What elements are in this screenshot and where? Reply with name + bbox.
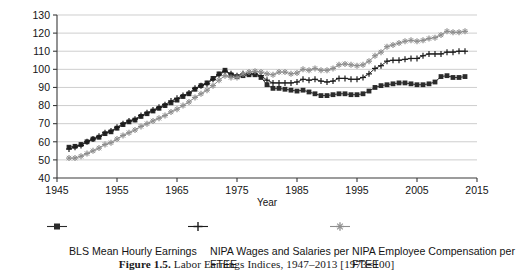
filled-square-marker	[307, 90, 312, 95]
legend-item-bls[interactable]: BLS Mean Hourly Earnings	[47, 219, 209, 258]
filled-square-marker	[379, 83, 384, 88]
star-marker	[102, 141, 108, 147]
filled-square-marker	[313, 91, 318, 96]
plus-marker	[300, 76, 306, 82]
filled-square-marker	[283, 87, 288, 92]
plus-marker	[444, 49, 450, 55]
star-marker	[396, 40, 402, 46]
filled-square-marker	[331, 92, 336, 97]
plus-marker	[390, 57, 396, 63]
star-marker	[132, 127, 138, 133]
star-marker	[402, 38, 408, 44]
x-tick-label: 2015	[465, 184, 489, 196]
star-marker	[336, 62, 342, 68]
star-marker	[126, 130, 132, 136]
axes-group	[57, 15, 477, 178]
star-marker	[360, 62, 366, 68]
star-marker	[90, 148, 96, 154]
star-marker	[420, 37, 426, 43]
y-tick-label: 120	[32, 27, 50, 39]
star-marker	[318, 67, 324, 73]
filled-square-marker	[433, 80, 438, 85]
plus-marker	[396, 57, 402, 63]
filled-square-marker	[277, 86, 282, 91]
star-marker	[180, 103, 186, 109]
filled-square-marker	[409, 81, 414, 86]
star-marker	[384, 44, 390, 50]
star-marker	[234, 74, 240, 80]
filled-square-marker	[289, 88, 294, 93]
star-marker	[300, 66, 306, 72]
star-marker	[168, 109, 174, 115]
plus-marker	[420, 53, 426, 59]
plus-marker	[312, 76, 318, 82]
filled-square-marker	[445, 73, 450, 78]
star-marker	[294, 70, 300, 76]
star-marker	[438, 32, 444, 38]
series-polyline	[69, 31, 465, 158]
filled-square-marker	[391, 81, 396, 86]
star-marker	[210, 83, 216, 89]
star-marker	[156, 115, 162, 121]
star-marker	[306, 67, 312, 73]
y-tick-label: 60	[38, 136, 50, 148]
star-marker	[408, 37, 414, 43]
star-marker	[390, 42, 396, 48]
series-3	[66, 28, 468, 161]
filled-square-marker	[367, 89, 372, 94]
star-marker	[324, 67, 330, 73]
figure-caption-text: Labor Earnings Indices, 1947–2013 [1973=…	[171, 258, 394, 270]
filled-square-marker	[295, 89, 300, 94]
star-marker	[114, 136, 120, 142]
x-axis-ticks: 19451955196519751985199520052015	[45, 178, 489, 196]
x-axis-title: Year	[257, 197, 278, 208]
x-tick-label: 1955	[105, 184, 129, 196]
x-tick-label: 2005	[405, 184, 429, 196]
star-marker	[444, 28, 450, 34]
star-marker	[276, 69, 282, 75]
star-marker	[192, 94, 198, 100]
filled-square-marker	[463, 74, 468, 79]
star-marker	[72, 155, 78, 161]
filled-square-marker	[325, 93, 330, 98]
plus-marker	[288, 80, 294, 86]
y-tick-label: 50	[38, 154, 50, 166]
star-marker	[270, 72, 276, 78]
filled-square-marker	[373, 85, 378, 90]
star-marker	[84, 151, 90, 157]
star-marker	[450, 29, 456, 35]
filled-square-marker	[439, 74, 444, 79]
legend-label-bls: BLS Mean Hourly Earnings	[69, 245, 197, 258]
plus-marker	[462, 48, 468, 54]
star-marker	[414, 38, 420, 44]
star-marker	[108, 140, 114, 146]
star-marker	[96, 145, 102, 151]
star-marker	[66, 155, 72, 161]
x-tick-label: 1995	[345, 184, 369, 196]
plus-marker	[438, 51, 444, 57]
y-axis-ticks: 405060708090100110120130	[32, 9, 57, 184]
star-marker	[462, 28, 468, 34]
plus-marker	[348, 76, 354, 82]
filled-square-marker	[397, 81, 402, 86]
filled-square-marker	[319, 93, 324, 98]
star-marker	[348, 62, 354, 68]
filled-square-marker	[421, 82, 426, 87]
y-tick-label: 110	[33, 45, 50, 57]
filled-square-marker	[349, 92, 354, 97]
y-tick-label: 90	[38, 81, 50, 93]
filled-square-marker	[385, 82, 390, 87]
star-marker	[204, 87, 210, 93]
plus-marker	[354, 76, 360, 82]
plus-marker	[294, 79, 300, 85]
filled-square-marker	[337, 91, 342, 96]
star-marker	[432, 35, 438, 41]
plus-marker	[426, 51, 432, 57]
figure-caption: Figure 1.5. Labor Earnings Indices, 1947…	[0, 258, 513, 270]
x-tick-label: 1975	[225, 184, 249, 196]
plus-marker	[282, 80, 288, 86]
x-tick-label: 1965	[165, 184, 189, 196]
y-tick-label: 100	[32, 63, 50, 75]
star-marker	[222, 73, 228, 79]
plus-marker	[456, 48, 462, 54]
